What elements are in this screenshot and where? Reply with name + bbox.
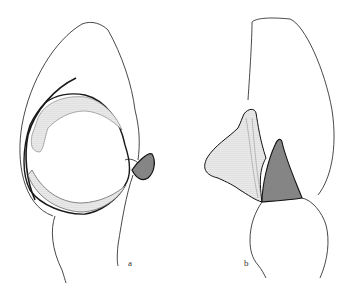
panel-a [20,22,154,283]
figure: a b [0,0,348,291]
panel-b [205,18,334,278]
illustration [0,0,348,291]
panel-label-a: a [128,258,132,268]
panel-label-b: b [244,258,249,268]
